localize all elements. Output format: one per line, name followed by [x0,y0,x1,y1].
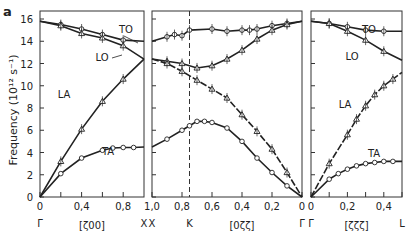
symmetry-point-label: X [149,218,156,229]
x-tick-label: 0 [37,201,43,212]
y-tick-label: 0 [27,192,33,203]
circle-marker [327,177,332,182]
circle-marker [354,164,359,169]
branch-label-ta: TA [101,146,114,157]
circle-marker [382,159,387,164]
x-tick-label: 0,4 [234,201,250,212]
branch-label-la: LA [58,89,71,100]
panel-frame [311,11,402,197]
dispersion-curve-ta [40,147,144,197]
y-tick-label: 12 [20,59,33,70]
circle-marker [202,119,207,124]
circle-marker [121,145,126,150]
y-tick-label: 8 [27,103,33,114]
symmetry-point-label: X [141,218,148,229]
x-tick-label: 0,8 [174,201,190,212]
circle-marker [180,128,185,133]
symmetry-point-label: Γ [37,218,43,229]
circle-marker [363,161,368,166]
x-tick-label: 0,2 [339,201,355,212]
dispersion-curve-ta [152,121,302,197]
circle-marker [255,156,260,161]
x-tick-label: 0,2 [264,201,280,212]
y-tick-label: 14 [20,36,33,47]
circle-marker [345,167,350,172]
y-tick-label: 4 [27,148,33,159]
symmetry-point-label: Γ [299,218,305,229]
y-tick-label: 10 [20,81,33,92]
y-tick-label: 16 [20,14,33,25]
circle-marker [187,124,192,129]
x-tick-label: 0 [299,201,305,212]
direction-label: [ζζζ] [344,220,368,231]
y-axis-label: Frequency (10¹² s⁻¹) [7,54,20,165]
circle-marker [59,171,64,176]
dispersion-curve-la [40,59,144,197]
circle-marker [270,170,275,175]
branch-label-lo: LO [95,52,108,63]
circle-marker [372,160,377,165]
phonon-dispersion-chart: aFrequency (10¹² s⁻¹)024681012141600,40,… [0,0,410,236]
branch-label-la: LA [339,99,352,110]
symmetry-point-label: K [186,218,193,229]
circle-marker [336,171,341,176]
x-tick-label: 0,6 [204,201,220,212]
circle-marker [131,145,136,150]
circle-marker [165,137,170,142]
symmetry-point-label: L [399,218,405,229]
circle-marker [285,184,290,189]
x-tick-label: 0,8 [115,201,131,212]
branch-label-lo: LO [345,51,358,62]
y-tick-label: 6 [27,125,33,136]
circle-marker [391,159,396,164]
x-tick-label: 0,4 [74,201,90,212]
branch-label-to: TO [118,24,133,35]
dispersion-curve-la [311,72,402,197]
circle-marker [79,156,84,161]
circle-marker [240,139,245,144]
y-tick-label: 2 [27,170,33,181]
circle-marker [195,119,200,124]
panel-label: a [3,4,12,19]
circle-marker [210,120,215,125]
branch-label-ta: TA [367,148,380,159]
x-tick-label: 1,0 [144,201,160,212]
direction-label: [ζ00] [79,220,105,231]
direction-label: [0ζζ] [229,220,254,231]
symmetry-point-label: Γ [308,218,314,229]
branch-label-to: TO [361,24,376,35]
x-tick-label: 0,4 [376,201,392,212]
x-tick-label: 0 [308,201,314,212]
circle-marker [225,126,230,131]
